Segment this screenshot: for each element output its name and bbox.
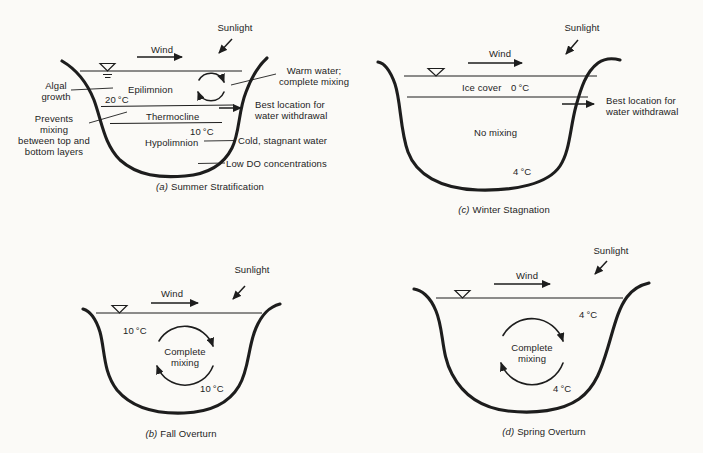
summer-surface-hatch-icon — [103, 75, 112, 78]
top-temp-label: 10 °C — [123, 325, 147, 336]
summer-sunlight-arrow — [219, 39, 232, 53]
spring-circulation-arrows-icon — [503, 319, 563, 341]
wind-label: Wind — [478, 48, 522, 59]
fall-water-surface-marker-icon — [112, 306, 127, 314]
cold-stagnant-label: Cold, stagnant water — [238, 135, 327, 146]
best-location-label: Best location for water withdrawal — [606, 95, 698, 117]
winter-caption: (c)Winter Stagnation — [429, 204, 579, 215]
top-temp-label: 4 °C — [579, 309, 597, 320]
complete-mixing-label: Complete mixing — [497, 342, 567, 364]
spring-drawing — [414, 261, 649, 412]
wind-label: Wind — [140, 44, 184, 55]
algal-growth-label: Algal growth — [28, 80, 84, 102]
hypolimnion-label: Hypolimnion — [145, 137, 198, 148]
spring-sunlight-arrow — [595, 261, 607, 274]
complete-mixing-label: Complete mixing — [150, 346, 220, 368]
sunlight-label: Sunlight — [212, 22, 258, 33]
winter-water-surface-marker-icon — [428, 69, 444, 77]
summer-epilimnion-bottom-line — [101, 105, 234, 107]
prevents-mixing-label: Prevents mixing between top and bottom l… — [8, 113, 100, 157]
fall-caption-title: Fall Overturn — [160, 428, 216, 439]
winter-basin-outline — [378, 59, 620, 190]
no-mixing-label: No mixing — [474, 127, 517, 138]
summer-thermocline-bottom-line — [110, 123, 222, 124]
winter-caption-letter: (c) — [458, 204, 469, 215]
summer-water-surface-marker-icon — [100, 64, 115, 72]
bottom-temp-label: 4 °C — [513, 166, 531, 177]
fall-caption: (b)Fall Overturn — [106, 428, 256, 439]
spring-water-surface-marker-icon — [455, 291, 470, 299]
summer-circulation-arrows-icon — [198, 92, 224, 101]
summer-circulation-arrows-icon — [199, 73, 224, 82]
spring-caption-letter: (d) — [502, 426, 514, 437]
sunlight-label: Sunlight — [229, 264, 275, 275]
low-do-label: Low DO concentrations — [226, 158, 327, 169]
warm-water-label: Warm water; complete mixing — [274, 65, 354, 87]
best-location-label: Best location for water withdrawal — [255, 99, 347, 121]
wind-label: Wind — [505, 270, 549, 281]
low-do-leader-line — [198, 163, 225, 164]
winter-drawing — [378, 40, 620, 190]
summer-caption-title: Summer Stratification — [171, 181, 264, 192]
summer-caption-letter: (a) — [156, 181, 168, 192]
fall-caption-letter: (b) — [145, 428, 157, 439]
spring-caption-title: Spring Overturn — [517, 426, 586, 437]
bottom-temp-label: 10 °C — [200, 383, 224, 394]
winter-sunlight-arrow — [566, 40, 578, 54]
ice-cover-label: Ice cover — [462, 82, 501, 93]
lake-stratification-figure: Sunlight Wind Algal growth Epilimnion 20… — [0, 0, 703, 453]
cold-stagnant-leader-line — [204, 141, 236, 142]
bottom-temp-label: 4 °C — [553, 383, 571, 394]
epilimnion-label: Epilimnion — [128, 84, 173, 95]
fall-circulation-arrows-icon — [159, 326, 213, 346]
winter-caption-title: Winter Stagnation — [473, 204, 550, 215]
sunlight-label: Sunlight — [559, 22, 605, 33]
thermocline-label: Thermocline — [146, 111, 199, 122]
summer-caption: (a)Summer Stratification — [135, 181, 285, 192]
thermocline-temp-label: 10 °C — [190, 126, 214, 137]
fall-sunlight-arrow — [233, 286, 245, 299]
spring-caption: (d)Spring Overturn — [469, 426, 619, 437]
wind-label: Wind — [150, 288, 194, 299]
epilimnion-temp-label: 20 °C — [105, 94, 129, 105]
sunlight-label: Sunlight — [588, 245, 634, 256]
spring-circulation-arrows-icon — [501, 363, 563, 385]
ice-temp-label: 0 °C — [511, 82, 529, 93]
